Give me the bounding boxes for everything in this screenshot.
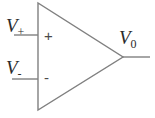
- output-label: V0: [119, 28, 137, 50]
- opamp-diagram: V+ V- V0 + -: [0, 0, 155, 118]
- inverting-input-label: V-: [6, 58, 22, 80]
- output-label-subscript: 0: [131, 37, 137, 51]
- output-label-base: V: [119, 27, 131, 48]
- noninverting-input-label: V+: [6, 16, 24, 38]
- noninverting-terminal-sign: +: [44, 28, 53, 43]
- noninverting-input-label-subscript: +: [18, 25, 25, 39]
- inverting-input-label-subscript: -: [18, 67, 22, 81]
- noninverting-input-label-base: V: [6, 15, 18, 36]
- inverting-terminal-sign: -: [44, 70, 49, 85]
- inverting-input-label-base: V: [6, 57, 18, 78]
